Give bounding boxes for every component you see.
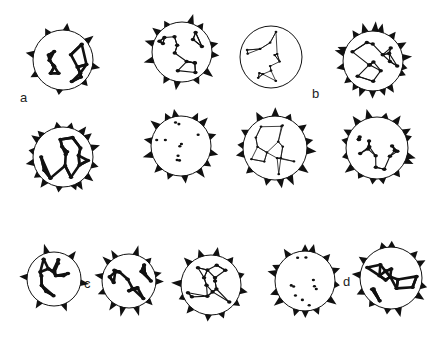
pollen-grain-b1 [228, 14, 314, 100]
pollen-grain-a1 [21, 18, 105, 102]
pollen-grain-a2 [140, 10, 224, 94]
pollen-grain-b2 [331, 19, 415, 103]
pollen-grain-c2 [90, 242, 168, 320]
pollen-illustration-figure: a b c d [0, 0, 442, 342]
pollen-grain-a4 [139, 104, 223, 188]
pollen-grain-b4 [334, 105, 420, 191]
pollen-grain-b3 [231, 104, 319, 192]
pollen-grain-c1 [15, 240, 93, 318]
pollen-grain-a3 [21, 115, 105, 199]
pollen-grain-d1 [263, 239, 347, 323]
pollen-grain-d2 [348, 235, 434, 321]
pollen-grain-c3 [169, 243, 253, 327]
